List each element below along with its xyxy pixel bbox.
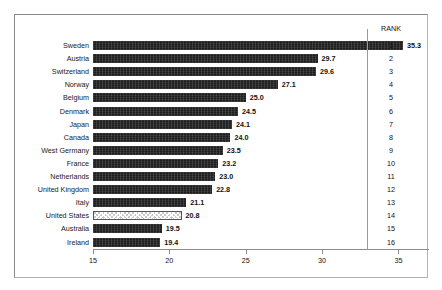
bar-value-label: 23.0 [219,170,233,183]
rank-cell: 3 [371,65,411,78]
x-tick-label: 30 [318,256,326,265]
bar-value-label: 19.4 [164,236,178,249]
rank-cell: 2 [371,52,411,65]
category-label: United Kingdom [15,183,89,196]
rank-cell: 14 [371,209,411,222]
bar-value-label: 23.2 [222,157,236,170]
bar-value-label: 19.5 [166,222,180,235]
bar-value-label: 27.1 [282,78,296,91]
x-tick-label: 25 [242,256,250,265]
bar [93,67,316,76]
bar [93,198,186,207]
bar [93,224,162,233]
category-label: Norway [15,78,89,91]
bar [93,41,403,50]
category-label: West Germany [15,144,89,157]
bar [93,146,223,155]
category-label: Netherlands [15,170,89,183]
bar-value-label: 22.8 [216,183,230,196]
x-tick-label: 20 [165,256,173,265]
x-tick-mark [322,250,323,254]
category-label: Switzerland [15,65,89,78]
bar-value-label: 29.6 [320,65,334,78]
bar [93,238,160,247]
rank-cell: 11 [371,170,411,183]
bar [93,133,230,142]
rank-cell: 7 [371,118,411,131]
category-label: Austria [15,52,89,65]
category-label: Canada [15,131,89,144]
bar-value-label: 20.8 [186,209,200,222]
rank-column-divider [367,29,368,250]
bar [93,159,218,168]
category-label: Ireland [15,236,89,249]
x-tick-label: 35 [394,256,402,265]
bar [93,93,246,102]
rank-cell: 8 [371,131,411,144]
bar-value-label: 29.7 [322,52,336,65]
rank-cell: 5 [371,91,411,104]
category-label: Denmark [15,105,89,118]
rank-cell: 4 [371,78,411,91]
category-label: Sweden [15,39,89,52]
category-label: Australia [15,222,89,235]
x-axis-line [93,249,429,250]
rank-cell: 16 [371,236,411,249]
rank-cell: 12 [371,183,411,196]
x-tick-mark [93,250,94,254]
plot-area: Sweden35.3Austria29.7Switzerland29.6Norw… [15,15,429,279]
x-tick-mark [246,250,247,254]
bar-value-label: 23.5 [227,144,241,157]
rank-cell: 10 [371,157,411,170]
x-tick-mark [169,250,170,254]
category-label: Japan [15,118,89,131]
rank-cell: 13 [371,196,411,209]
bar [93,54,318,63]
bar [93,107,238,116]
category-label: Belgium [15,91,89,104]
rank-cell: 9 [371,144,411,157]
category-label: France [15,157,89,170]
rank-cell: 15 [371,222,411,235]
bar-highlighted [93,211,182,220]
category-label: United States [15,209,89,222]
chart-frame: Sweden35.3Austria29.7Switzerland29.6Norw… [14,14,428,278]
bar-value-label: 25.0 [250,91,264,104]
rank-column-header: RANK [371,24,411,33]
rank-cell: 6 [371,105,411,118]
bar-value-label: 21.1 [190,196,204,209]
bar [93,120,232,129]
category-label: Italy [15,196,89,209]
bar [93,185,212,194]
bar [93,172,215,181]
rank-cell: 1 [371,39,411,52]
x-tick-mark [398,250,399,254]
x-tick-label: 15 [89,256,97,265]
bar-value-label: 24.0 [234,131,248,144]
bar-value-label: 24.5 [242,105,256,118]
bar [93,80,278,89]
bar-value-label: 24.1 [236,118,250,131]
